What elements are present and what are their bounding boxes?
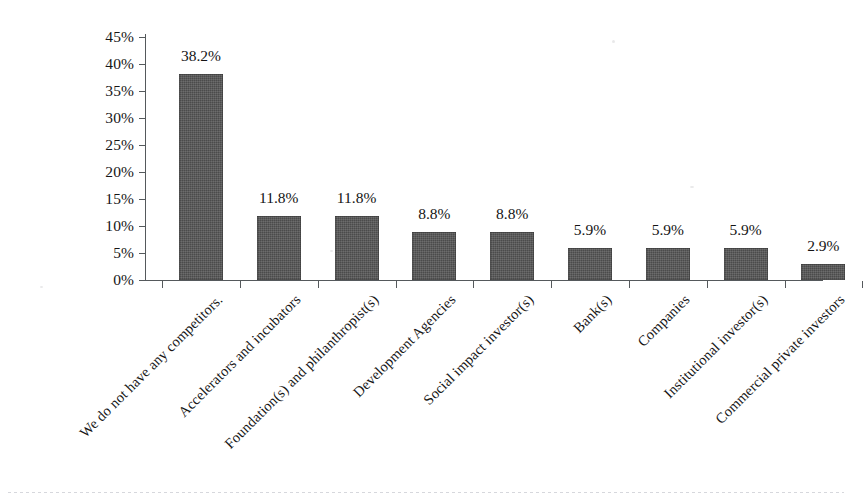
bar-value-label: 5.9% — [630, 222, 706, 238]
bar-value-label: 5.9% — [708, 222, 784, 238]
x-axis-tick — [318, 281, 319, 288]
y-axis-tick-label: 25% — [88, 137, 134, 153]
y-axis-tick-label: 30% — [88, 110, 134, 126]
bar — [568, 248, 612, 280]
x-axis-category-label: Companies — [635, 292, 693, 350]
bar — [646, 248, 690, 280]
x-axis-tick — [785, 281, 786, 288]
x-axis-category-label: Commercial private investors — [713, 292, 848, 427]
x-axis-tick — [240, 281, 241, 288]
bar-value-label: 11.8% — [241, 190, 317, 206]
bar — [335, 216, 379, 280]
scan-artifact-line — [8, 492, 844, 493]
bar-value-label: 8.8% — [396, 206, 472, 222]
bar-value-label: 8.8% — [474, 206, 550, 222]
x-axis-tick — [551, 281, 552, 288]
bar-value-label: 2.9% — [785, 238, 861, 254]
bar-value-label: 5.9% — [552, 222, 628, 238]
plot-area: 38.2%11.8%11.8%8.8%8.8%5.9%5.9%5.9%2.9% — [145, 32, 822, 280]
x-axis-tick — [707, 281, 708, 288]
x-axis-tick — [396, 281, 397, 288]
x-axis-category-label: Foundation(s) and philanthropist(s) — [222, 292, 382, 452]
scan-speck — [40, 286, 43, 288]
scan-speck — [690, 186, 694, 188]
bar — [412, 232, 456, 280]
y-axis-tick-label: 0% — [88, 272, 134, 288]
scan-speck — [330, 250, 333, 252]
y-axis-tick-label: 35% — [88, 83, 134, 99]
x-axis-tick — [473, 281, 474, 288]
y-axis-tick-label: 10% — [88, 218, 134, 234]
y-axis-tick-label: 5% — [88, 245, 134, 261]
bar — [257, 216, 301, 280]
y-axis-tick-label: 45% — [88, 29, 134, 45]
y-axis-tick-label: 40% — [88, 56, 134, 72]
y-axis-tick-label: 15% — [88, 191, 134, 207]
bar — [179, 74, 223, 280]
x-axis-tick — [629, 281, 630, 288]
y-axis-tick-label: 20% — [88, 164, 134, 180]
bar — [490, 232, 534, 280]
x-axis-category-label: Bank(s) — [571, 292, 615, 336]
bar-value-label: 38.2% — [163, 48, 239, 64]
bar — [801, 264, 845, 280]
x-axis-tick — [162, 281, 163, 288]
x-axis-line — [145, 280, 823, 281]
x-axis-category-label: We do not have any competitors. — [77, 292, 226, 441]
y-axis-tick — [139, 280, 146, 281]
scan-speck — [612, 40, 615, 43]
bar — [724, 248, 768, 280]
bar-value-label: 11.8% — [319, 190, 395, 206]
